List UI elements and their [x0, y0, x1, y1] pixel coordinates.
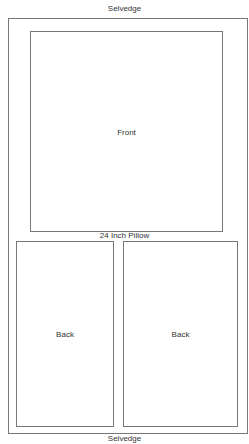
back-right-label: Back [124, 330, 237, 339]
back-left-label: Back [17, 330, 113, 339]
front-piece: Front [30, 31, 223, 232]
selvedge-top-label: Selvedge [0, 4, 249, 13]
front-label: Front [31, 127, 222, 136]
back-piece-left: Back [16, 241, 114, 427]
selvedge-bottom-label: Selvedge [0, 434, 249, 443]
pillow-size-label: 24 Inch Pillow [0, 231, 249, 240]
back-piece-right: Back [123, 241, 238, 427]
